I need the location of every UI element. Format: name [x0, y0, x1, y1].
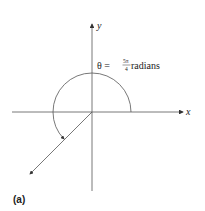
angle-diagram: y x θ = 5π 4 radians (a): [0, 0, 205, 211]
angle-numerator: 5π: [123, 58, 129, 64]
angle-label-suffix: radians: [131, 60, 160, 71]
panel-label: (a): [13, 194, 25, 205]
angle-label-prefix: θ =: [97, 60, 110, 71]
x-axis-label: x: [185, 106, 191, 117]
terminal-ray: [30, 112, 92, 174]
y-axis-label: y: [96, 20, 102, 31]
angle-denominator: 4: [125, 66, 128, 72]
